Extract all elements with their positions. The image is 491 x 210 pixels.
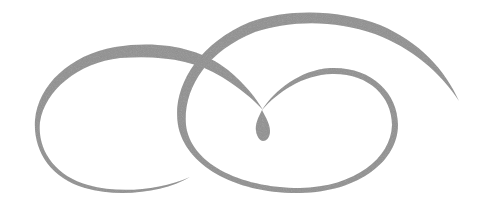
left-loop: [35, 45, 263, 193]
ornament-canvas: [0, 0, 491, 210]
right-loop: [177, 13, 459, 193]
swirl-ornament-icon: [0, 0, 491, 210]
teardrop: [256, 110, 270, 141]
